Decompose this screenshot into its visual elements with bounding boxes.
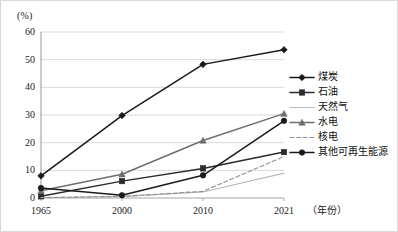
legend-swatch-none-icon [289,130,315,143]
x-tick-label: 2000 [96,205,148,216]
legend-item-核电[interactable]: 核电 [289,129,397,144]
legend-label: 其他可再生能源 [315,146,388,158]
x-tick-label: 2010 [177,205,229,216]
x-axis-title: （年份） [307,205,347,216]
legend-swatch-square-icon [289,85,315,98]
y-tick-label: 20 [9,138,35,148]
y-tick-label: 50 [9,55,35,65]
y-tick-label: 30 [9,110,35,120]
series-line [41,152,284,196]
legend-swatch-circle-icon [289,145,315,158]
legend-swatch-none-icon [289,100,315,113]
legend-label: 天然气 [315,101,348,113]
legend-swatch-triangle-icon [289,115,315,128]
legend-label: 水电 [315,116,338,128]
legend-item-水电[interactable]: 水电 [289,114,397,129]
data-point-circle [119,192,125,198]
data-point-circle [38,185,44,191]
data-point-diamond [281,46,288,53]
legend-item-其他可再生能源[interactable]: 其他可再生能源 [289,144,397,159]
data-point-square [200,166,205,171]
data-point-diamond [299,74,306,81]
series-layer [38,46,288,199]
data-point-triangle [281,110,287,116]
data-point-circle [299,150,305,156]
x-tick-label: 2021 [258,205,310,216]
series-line [41,114,284,191]
data-point-square [119,178,124,183]
legend-swatch-diamond-icon [289,70,315,83]
y-tick-label: 10 [9,165,35,175]
legend-item-天然气[interactable]: 天然气 [289,99,397,114]
y-tick-label: 0 [9,193,35,203]
legend-item-石油[interactable]: 石油 [289,84,397,99]
x-tick-label: 1965 [15,205,67,216]
legend-label: 石油 [315,86,338,98]
chart-legend: 煤炭石油天然气水电核电其他可再生能源 [289,69,397,159]
data-point-square [299,90,304,95]
data-point-square [281,149,286,154]
chart-figure: (%) 6050403020100 1965200020102021 （年份） … [0,0,398,232]
data-point-circle [281,118,287,124]
y-tick-label: 40 [9,82,35,92]
legend-item-煤炭[interactable]: 煤炭 [289,69,397,84]
legend-label: 核电 [315,131,338,143]
y-tick-label: 60 [9,27,35,37]
data-point-circle [200,173,206,179]
legend-label: 煤炭 [315,71,338,83]
